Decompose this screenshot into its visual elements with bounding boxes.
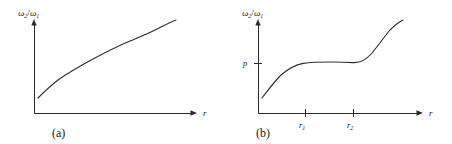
panel-a-y-axis-arrowhead — [31, 19, 36, 26]
panel-a-caption: (a) — [52, 126, 65, 140]
panel-a-y-axis-label: ω2/ω1 — [18, 8, 39, 19]
chart-panel-b: ω2/ω1 p r1 r2 r (b) — [226, 0, 452, 144]
panel-b-y-tick-label-p: p — [242, 58, 247, 68]
panel-b-svg: ω2/ω1 p r1 r2 r (b) — [226, 0, 452, 144]
panel-a-svg: ω2/ω1 r (a) — [0, 0, 226, 144]
panel-a-curve — [38, 20, 176, 98]
panel-a-x-axis-arrowhead — [191, 110, 198, 115]
panel-b-y-axis-label: ω2/ω1 — [242, 8, 263, 19]
figure-root: ω2/ω1 r (a) ω2/ω1 p r1 r2 r (b) — [0, 0, 452, 144]
panel-b-x-axis-arrowhead — [417, 110, 424, 115]
panel-b-y-axis-arrowhead — [255, 19, 260, 26]
chart-panel-a: ω2/ω1 r (a) — [0, 0, 226, 144]
panel-b-curve — [262, 20, 403, 98]
panel-a-x-axis-label: r — [203, 108, 207, 118]
panel-b-caption: (b) — [256, 126, 270, 140]
panel-b-x-tick-label-r1: r1 — [299, 120, 305, 131]
panel-b-x-tick-label-r2: r2 — [347, 120, 353, 131]
panel-b-x-axis-label: r — [429, 108, 433, 118]
